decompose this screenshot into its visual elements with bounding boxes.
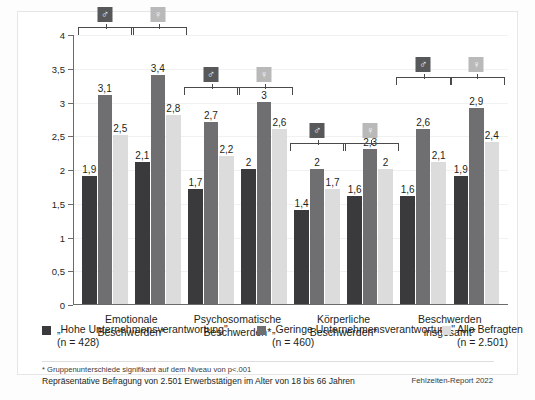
bar [454, 176, 469, 304]
bar-value-label: 1,9 [454, 164, 468, 175]
source-note: Fehlzeiten-Report 2022 [412, 376, 493, 385]
bar-value-label: 2,5 [113, 123, 127, 134]
bar [188, 189, 203, 304]
bar-value-label: 1,6 [348, 184, 362, 195]
bar [257, 102, 272, 305]
bracket-stem [106, 24, 107, 29]
footnotes: * Gruppenunterschiede signifikant auf de… [42, 364, 402, 387]
bar [378, 169, 393, 304]
bar-value-label: 1,6 [401, 184, 415, 195]
bars-layer: 1,93,12,52,13,42,81,72,72,2232,61,421,71… [73, 35, 508, 304]
legend-sample-size: (n = 428) [57, 336, 228, 349]
legend-divider [42, 361, 494, 362]
bar-value-label: 2,6 [273, 117, 287, 128]
legend-swatch [442, 326, 451, 335]
y-axis-tick-label: 4 [60, 30, 65, 41]
y-axis-tick-label: 3,5 [52, 63, 65, 74]
bar-value-label: 1,4 [295, 198, 309, 209]
legend-item[interactable]: „Hohe Unternehmensverantwortung"(n = 428… [42, 323, 228, 349]
bar-value-label: 2,2 [219, 144, 233, 155]
bar [325, 189, 340, 304]
bar [241, 169, 256, 304]
bracket-female [237, 87, 293, 95]
bracket-stem [159, 24, 160, 29]
significance-note: * Gruppenunterschiede signifikant auf de… [42, 364, 402, 375]
bar-value-label: 1,7 [188, 177, 202, 188]
bar [166, 115, 181, 304]
y-axis-tick-label: 1,5 [52, 198, 65, 209]
bar [347, 196, 362, 304]
legend-swatch [257, 326, 266, 335]
female-symbol-icon: ♀ [256, 67, 271, 82]
bar-value-label: 2,4 [485, 130, 499, 141]
bar [294, 210, 309, 305]
bracket-male [290, 143, 346, 151]
legend-text: Alle Befragten(n = 2.501) [457, 323, 523, 349]
bracket-female [343, 143, 399, 151]
bracket-stem [371, 140, 372, 145]
female-symbol-icon: ♀ [469, 57, 484, 72]
y-axis-tick-label: 2,5 [52, 131, 65, 142]
bracket-female [450, 77, 506, 85]
legend-item[interactable]: „Geringe Unternehmensverantwortung"(n = … [257, 323, 455, 349]
bar [363, 149, 378, 304]
bar [310, 169, 325, 304]
female-symbol-icon: ♀ [363, 123, 378, 138]
legend-item[interactable]: Alle Befragten(n = 2.501) [442, 323, 523, 349]
figure-container: 00,511,522,533,54 1,93,12,52,13,42,81,72… [0, 0, 535, 400]
bar [416, 129, 431, 305]
bracket-male [184, 87, 240, 95]
bar [98, 95, 113, 304]
bar-value-label: 2 [383, 157, 389, 168]
male-symbol-icon: ♂ [97, 7, 112, 22]
y-axis-tick-label: 2 [60, 165, 65, 176]
bar [151, 75, 166, 305]
bracket-stem [318, 140, 319, 145]
bar [469, 108, 484, 304]
y-axis-tick-label: 0 [60, 300, 65, 311]
bracket-stem [477, 74, 478, 79]
bar [82, 176, 97, 304]
bracket-stem [424, 74, 425, 79]
male-symbol-icon: ♂ [203, 67, 218, 82]
bar [272, 129, 287, 305]
bracket-stem [212, 84, 213, 89]
bar-value-label: 1,9 [82, 164, 96, 175]
bar-value-label: 2 [314, 157, 320, 168]
x-axis-line [73, 304, 508, 305]
bar [431, 162, 446, 304]
legend-swatch [42, 326, 51, 335]
bar-value-label: 2,6 [416, 117, 430, 128]
legend-sample-size: (n = 2.501) [457, 336, 523, 349]
bar-value-label: 3,4 [151, 63, 165, 74]
bar-value-label: 3,1 [98, 83, 112, 94]
bracket-female [131, 27, 187, 35]
legend-text: „Geringe Unternehmensverantwortung"(n = … [272, 323, 455, 349]
legend-sample-size: (n = 460) [272, 336, 455, 349]
bar [204, 122, 219, 304]
chart-panel: 00,511,522,533,54 1,93,12,52,13,42,81,72… [17, 11, 518, 375]
legend-label: „Hohe Unternehmensverantwortung" [57, 323, 228, 336]
bar-value-label: 2,7 [204, 110, 218, 121]
bar-value-label: 1,7 [326, 177, 340, 188]
sample-note: Repräsentative Befragung von 2.501 Erwer… [42, 375, 402, 387]
bracket-male [78, 27, 134, 35]
bracket-stem [265, 84, 266, 89]
male-symbol-icon: ♂ [310, 123, 325, 138]
legend-label: Alle Befragten [457, 323, 523, 336]
male-symbol-icon: ♂ [416, 57, 431, 72]
y-axis-tick-label: 3 [60, 97, 65, 108]
bar-value-label: 2 [246, 157, 252, 168]
bar [400, 196, 415, 304]
bar [113, 135, 128, 304]
y-axis-tick [68, 305, 73, 306]
bar-value-label: 2,1 [135, 150, 149, 161]
bar [135, 162, 150, 304]
bar-value-label: 2,1 [432, 150, 446, 161]
plot-area: 00,511,522,533,54 1,93,12,52,13,42,81,72… [73, 35, 508, 305]
legend-label: „Geringe Unternehmensverantwortung" [272, 323, 455, 336]
bracket-male [396, 77, 452, 85]
female-symbol-icon: ♀ [150, 7, 165, 22]
bar [485, 142, 500, 304]
bar-value-label: 2,9 [469, 96, 483, 107]
